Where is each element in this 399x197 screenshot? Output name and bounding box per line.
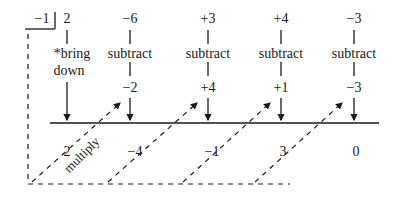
result-4: 3 (280, 145, 287, 159)
remainder: 0 (353, 145, 360, 159)
divisor: −1 (35, 12, 50, 26)
coefficient-1: 2 (64, 12, 71, 26)
diagram-lines (0, 0, 399, 197)
coefficient-3: +3 (201, 12, 216, 26)
product-2: −2 (123, 81, 138, 95)
result-3: −1 (205, 145, 220, 159)
coefficient-4: +4 (274, 12, 289, 26)
subtract-label-3: subtract (186, 46, 230, 61)
coefficient-2: −6 (123, 12, 138, 26)
product-5: −3 (347, 81, 362, 95)
subtract-label-4: subtract (259, 46, 303, 61)
bring-down-label-line2: down (53, 63, 84, 78)
result-2: −4 (128, 145, 143, 159)
coefficient-5: −3 (347, 12, 362, 26)
subtract-label-2: subtract (108, 46, 152, 61)
product-3: +4 (201, 81, 216, 95)
bring-down-label-line1: *bring (54, 46, 91, 61)
product-4: +1 (274, 81, 289, 95)
diagonal-multiply-arrows (32, 103, 342, 182)
subtract-label-5: subtract (332, 46, 376, 61)
